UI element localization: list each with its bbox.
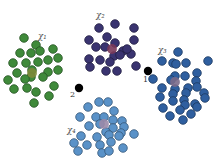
cluster-point (169, 97, 178, 106)
cluster-point (182, 59, 191, 68)
cluster-diagram: χ₁ χ₂ χ₃ χ₄ 1 2 (0, 0, 219, 166)
cluster-point (201, 94, 210, 103)
cluster-centroid (170, 77, 180, 87)
cluster-point (176, 106, 185, 115)
cluster-point (85, 36, 94, 45)
cluster-point (76, 113, 85, 122)
cluster-point (110, 107, 119, 116)
cluster-point (96, 56, 105, 65)
outlier-label-2: 2 (70, 90, 75, 99)
cluster-point (27, 49, 36, 58)
cluster-point (115, 132, 124, 141)
cluster-point (106, 58, 115, 67)
cluster-point (158, 57, 167, 66)
cluster-point (50, 82, 59, 91)
cluster-label-4: χ₄ (66, 125, 76, 135)
cluster-point (187, 110, 196, 119)
cluster-point (193, 69, 202, 78)
cluster-point (85, 122, 94, 131)
cluster-point (13, 69, 22, 78)
cluster-point (84, 103, 93, 112)
cluster-point (4, 76, 13, 85)
cluster-point (159, 104, 168, 113)
cluster-centroid (99, 119, 109, 129)
cluster-point (21, 75, 30, 84)
outlier-1-point (144, 67, 152, 75)
cluster-point (174, 48, 183, 57)
cluster-label-2: χ₂ (95, 10, 105, 20)
cluster-point (54, 66, 63, 75)
cluster-point (166, 112, 175, 121)
cluster-1 (4, 34, 63, 108)
cluster-centroid (107, 44, 117, 54)
cluster-point (49, 45, 58, 54)
cluster-2 (85, 20, 141, 76)
cluster-point (39, 73, 48, 82)
cluster-point (123, 45, 132, 54)
cluster-point (102, 67, 111, 76)
cluster-point (113, 67, 122, 76)
cluster-point (83, 141, 92, 150)
cluster-point (92, 43, 101, 52)
cluster-point (34, 58, 43, 67)
cluster-point (45, 92, 54, 101)
cluster-point (9, 59, 18, 68)
cluster-point (96, 141, 105, 150)
cluster-point (109, 116, 118, 125)
cluster-point (30, 99, 39, 108)
cluster-point (95, 24, 104, 33)
clusters-layer (4, 20, 213, 158)
cluster-point (193, 83, 202, 92)
cluster-point (104, 98, 113, 107)
cluster-3 (149, 48, 213, 125)
cluster-point (158, 84, 167, 93)
cluster-label-1: χ₁ (37, 31, 47, 41)
cluster-point (204, 57, 213, 66)
cluster-point (32, 88, 41, 97)
cluster-point (10, 85, 19, 94)
cluster-point (181, 72, 190, 81)
cluster-point (132, 62, 141, 71)
cluster-point (149, 75, 158, 84)
outlier-2-point (75, 84, 83, 92)
cluster-point (172, 60, 181, 69)
cluster-point (105, 147, 114, 156)
cluster-point (44, 56, 53, 65)
cluster-point (130, 130, 139, 139)
cluster-point (156, 93, 165, 102)
cluster-point (111, 20, 120, 29)
outlier-label-1: 1 (143, 75, 148, 84)
cluster-point (23, 84, 32, 93)
cluster-point (103, 33, 112, 42)
cluster-label-3: χ₃ (157, 45, 167, 55)
cluster-point (95, 98, 104, 107)
cluster-point (130, 24, 139, 33)
cluster-point (36, 47, 45, 56)
cluster-point (16, 49, 25, 58)
cluster-point (130, 36, 139, 45)
cluster-point (179, 116, 188, 125)
cluster-point (77, 132, 86, 141)
cluster-point (119, 144, 128, 153)
cluster-centroid (27, 68, 37, 78)
cluster-point (107, 138, 116, 147)
cluster-point (86, 63, 95, 72)
cluster-point (22, 59, 31, 68)
cluster-point (85, 55, 94, 64)
cluster-point (74, 147, 83, 156)
cluster-point (70, 139, 79, 148)
cluster-point (193, 103, 202, 112)
cluster-4 (70, 98, 139, 158)
cluster-point (93, 133, 102, 142)
cluster-point (54, 54, 63, 63)
cluster-point (20, 34, 29, 43)
cluster-point (116, 51, 125, 60)
